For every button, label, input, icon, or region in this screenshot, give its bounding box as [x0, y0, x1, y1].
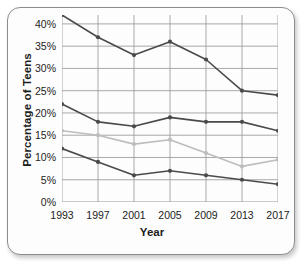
data-point	[168, 40, 172, 44]
data-point	[62, 129, 64, 133]
data-point	[276, 129, 278, 133]
data-point	[204, 120, 208, 124]
data-point	[276, 93, 278, 97]
data-point	[240, 178, 244, 182]
data-point	[276, 158, 278, 162]
plot-area: 0%5%10%15%20%25%30%35%40% 19931997200120…	[62, 15, 278, 202]
y-tick-label: 35%	[35, 40, 56, 52]
y-tick-label: 10%	[35, 151, 56, 163]
data-point	[204, 173, 208, 177]
x-tick-label: 2009	[194, 209, 217, 221]
x-tick-label: 2013	[230, 209, 253, 221]
x-tick-label: 2001	[122, 209, 145, 221]
data-point	[240, 89, 244, 93]
y-tick-label: 20%	[35, 107, 56, 119]
chart-card: Percentage of Teens Year 0%5%10%15%20%25…	[7, 7, 295, 255]
x-tick-label: 2017	[266, 209, 289, 221]
data-point	[168, 138, 172, 142]
data-point	[204, 57, 208, 61]
line-chart-svg	[62, 15, 278, 202]
y-axis-title: Percentage of Teens	[21, 35, 33, 185]
data-point	[132, 142, 136, 146]
x-tick-label: 1993	[50, 209, 73, 221]
x-tick-label: 1997	[86, 209, 109, 221]
y-tick-label: 0%	[41, 196, 56, 208]
data-point	[132, 124, 136, 128]
y-tick-label: 15%	[35, 129, 56, 141]
data-point	[96, 120, 100, 124]
data-point	[240, 120, 244, 124]
data-point	[96, 160, 100, 164]
y-tick-label: 5%	[41, 174, 56, 186]
y-tick-label: 25%	[35, 85, 56, 97]
data-point	[132, 173, 136, 177]
y-tick-label: 30%	[35, 62, 56, 74]
data-point	[96, 133, 100, 137]
data-point	[204, 151, 208, 155]
data-point	[132, 53, 136, 57]
data-point	[168, 115, 172, 119]
x-tick-label: 2005	[158, 209, 181, 221]
data-point	[276, 182, 278, 186]
data-point	[96, 35, 100, 39]
y-tick-label: 40%	[35, 18, 56, 30]
x-axis-title: Year	[8, 226, 296, 238]
data-point	[168, 169, 172, 173]
data-point	[240, 164, 244, 168]
